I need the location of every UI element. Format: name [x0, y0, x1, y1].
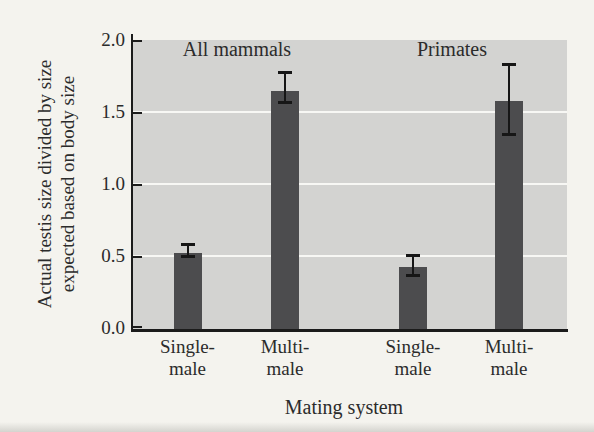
- error-bar-cap-bottom: [406, 274, 420, 277]
- y-tick-label: 0.5: [0, 245, 125, 267]
- error-bar: [284, 72, 286, 104]
- bar: [174, 253, 202, 329]
- error-bar-cap-bottom: [278, 101, 292, 104]
- x-tick-label: Multi-male: [485, 336, 534, 380]
- x-tick-label-line: male: [160, 358, 215, 380]
- x-tick-label-line: Multi-: [485, 336, 534, 358]
- y-tick-label: 0.0: [0, 317, 125, 339]
- y-tick-label: 2.0: [0, 29, 125, 51]
- error-bar-cap-top: [181, 243, 195, 246]
- x-tick-label-line: Multi-: [261, 336, 310, 358]
- x-tick-label-line: Single-: [160, 336, 215, 358]
- y-axis-tick: [133, 112, 142, 114]
- y-axis-tick: [133, 326, 142, 328]
- y-axis-tick: [133, 256, 142, 258]
- x-tick-label-line: male: [386, 358, 441, 380]
- plot-area: All mammals Primates: [133, 40, 567, 329]
- x-tick-label: Single-male: [386, 336, 441, 380]
- group-title-all-mammals: All mammals: [183, 38, 291, 61]
- y-axis-tick: [133, 184, 142, 186]
- error-bar: [412, 255, 414, 277]
- y-tick-label: 1.0: [0, 173, 125, 195]
- error-bar-cap-bottom: [181, 255, 195, 258]
- error-bar-cap-top: [502, 63, 516, 66]
- x-tick-label-line: Single-: [386, 336, 441, 358]
- figure: Actual testis size divided by size expec…: [0, 0, 594, 432]
- error-bar: [508, 64, 510, 135]
- error-bar-cap-top: [406, 254, 420, 257]
- y-axis-line: [131, 34, 133, 332]
- y-axis-tick: [133, 40, 142, 42]
- x-tick-label: Multi-male: [261, 336, 310, 380]
- x-tick-label-line: male: [485, 358, 534, 380]
- x-tick-label-line: male: [261, 358, 310, 380]
- error-bar-cap-bottom: [502, 133, 516, 136]
- bar: [271, 91, 299, 329]
- x-axis-title: Mating system: [285, 396, 403, 419]
- x-tick-label: Single-male: [160, 336, 215, 380]
- x-axis-line: [131, 329, 568, 332]
- group-title-primates: Primates: [417, 38, 487, 61]
- scan-shadow: [0, 422, 594, 432]
- y-tick-label: 1.5: [0, 101, 125, 123]
- error-bar-cap-top: [278, 71, 292, 74]
